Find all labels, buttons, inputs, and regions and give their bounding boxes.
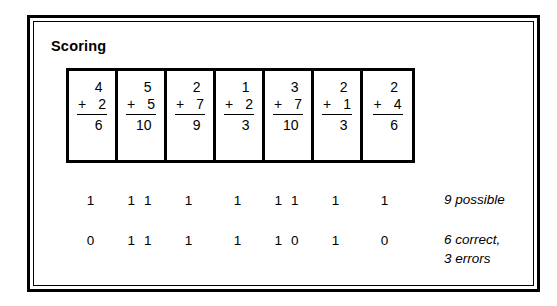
sum-value: 10: [275, 115, 302, 134]
score-cell: 1: [164, 230, 213, 250]
score-cell: 11: [115, 190, 164, 210]
sum-value: 10: [128, 115, 155, 134]
score-row-possible: 111111111: [66, 190, 409, 210]
addend-top: 2: [177, 79, 204, 96]
score-digit: 1: [234, 193, 242, 208]
score-digit: 1: [332, 193, 340, 208]
addend-bottom-number: 7: [196, 96, 204, 113]
problem-cell: 2+46: [363, 71, 412, 160]
addend-bottom-line: +2: [77, 96, 107, 115]
score-digit: 1: [144, 193, 152, 208]
score-digit: 1: [381, 193, 389, 208]
score-cell: 11: [262, 190, 311, 210]
plus-icon: +: [374, 96, 382, 113]
figure-inner-border: Scoring 4+265+5102+791+233+7102+132+46 1…: [33, 21, 534, 286]
score-cell: 1: [311, 230, 360, 250]
score-digit: 1: [234, 233, 242, 248]
score-digit: 1: [87, 193, 95, 208]
problem-cell: 4+26: [69, 71, 118, 160]
addend-bottom-line: +2: [224, 96, 254, 115]
score-digit: 1: [127, 193, 135, 208]
score-digit: 0: [87, 233, 95, 248]
score-cell: 1: [311, 190, 360, 210]
addend-bottom-line: +7: [273, 96, 303, 115]
problem-cell: 2+79: [167, 71, 216, 160]
addend-bottom-number: 5: [147, 96, 155, 113]
score-note-correct: 6 correct, 3 errors: [444, 230, 500, 268]
plus-icon: +: [176, 96, 184, 113]
score-note-possible: 9 possible: [444, 190, 505, 209]
sum-value: 9: [177, 115, 204, 134]
score-digit: 1: [127, 233, 135, 248]
sum-value: 3: [226, 115, 253, 134]
addend-top: 4: [79, 79, 106, 96]
score-cell: 1: [213, 190, 262, 210]
score-digit: 1: [185, 193, 193, 208]
addend-top: 1: [226, 79, 253, 96]
score-row-correct: 011111010: [66, 230, 409, 250]
score-cell: 0: [360, 230, 409, 250]
score-digit: 1: [144, 233, 152, 248]
problem-cell: 5+510: [118, 71, 167, 160]
plus-icon: +: [78, 96, 86, 113]
score-digit: 0: [291, 233, 299, 248]
addend-bottom-line: +7: [175, 96, 205, 115]
score-cell: 11: [115, 230, 164, 250]
score-digit: 0: [381, 233, 389, 248]
problem-cell: 2+13: [314, 71, 363, 160]
score-digit: 1: [291, 193, 299, 208]
score-cell: 1: [360, 190, 409, 210]
sum-value: 6: [79, 115, 106, 134]
addend-top: 5: [128, 79, 155, 96]
addend-top: 3: [275, 79, 302, 96]
figure-outer-border: Scoring 4+265+5102+791+233+7102+132+46 1…: [27, 15, 540, 292]
score-digit: 1: [274, 233, 282, 248]
problems-table: 4+265+5102+791+233+7102+132+46: [66, 68, 415, 163]
addend-bottom-number: 1: [343, 96, 351, 113]
addend-bottom-number: 2: [98, 96, 106, 113]
score-digit: 1: [332, 233, 340, 248]
sum-value: 6: [374, 115, 401, 134]
addend-bottom-line: +1: [322, 96, 352, 115]
score-cell: 0: [66, 230, 115, 250]
addend-bottom-number: 7: [294, 96, 302, 113]
score-cell: 1: [213, 230, 262, 250]
addend-bottom-number: 4: [394, 96, 402, 113]
addend-bottom-line: +5: [126, 96, 156, 115]
score-digit: 1: [274, 193, 282, 208]
score-cell: 1: [66, 190, 115, 210]
plus-icon: +: [274, 96, 282, 113]
plus-icon: +: [225, 96, 233, 113]
addend-bottom-line: +4: [373, 96, 403, 115]
score-cell: 1: [164, 190, 213, 210]
addend-bottom-number: 2: [245, 96, 253, 113]
plus-icon: +: [127, 96, 135, 113]
addend-top: 2: [324, 79, 351, 96]
sum-value: 3: [324, 115, 351, 134]
page-title: Scoring: [51, 38, 106, 54]
plus-icon: +: [323, 96, 331, 113]
score-digit: 1: [185, 233, 193, 248]
score-cell: 10: [262, 230, 311, 250]
addend-top: 2: [374, 79, 401, 96]
problem-cell: 3+710: [265, 71, 314, 160]
problem-cell: 1+23: [216, 71, 265, 160]
